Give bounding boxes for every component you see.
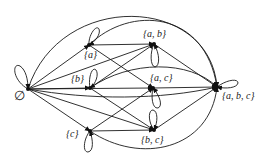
self-loop-a [89, 28, 99, 45]
self-loop-abc [217, 80, 238, 88]
edge-empty-to-bc [28, 89, 154, 130]
edge-ac-to-abc [153, 87, 217, 88]
node-c [88, 129, 92, 133]
node-label-ab: {a, b} [143, 28, 166, 39]
edge-a-to-ab [89, 44, 154, 45]
edge-c-to-bc [90, 130, 154, 131]
edge-layer [28, 16, 217, 148]
node-label-a: {a} [84, 49, 97, 60]
node-label-ac: {a, c} [150, 72, 172, 83]
node-b [88, 86, 92, 90]
node-label-empty: ∅ [14, 88, 25, 103]
edge-bc-to-abc [154, 87, 217, 130]
node-label-c: {c} [66, 128, 78, 139]
edge-b-to-ab [90, 44, 154, 88]
node-ac [151, 86, 155, 90]
node-a [87, 43, 91, 47]
self-loop-ac [152, 88, 160, 108]
edge-empty-to-abc [28, 16, 217, 89]
node-label-b: {b} [71, 73, 84, 84]
node-bc [152, 128, 156, 132]
node-abc [215, 85, 219, 89]
self-loop-ab [151, 44, 159, 67]
node-empty [26, 87, 30, 91]
self-loop-empty [15, 65, 28, 89]
self-loop-bc [149, 110, 157, 130]
node-label-bc: {b, c} [141, 134, 163, 145]
subset-digraph: ∅{a}{b}{c}{a, b}{a, c}{b, c}{a, b, c} [0, 0, 276, 158]
self-loop-c [84, 131, 92, 152]
self-loop-b [89, 69, 97, 88]
node-label-abc: {a, b, c} [222, 90, 254, 101]
node-ab [152, 42, 156, 46]
